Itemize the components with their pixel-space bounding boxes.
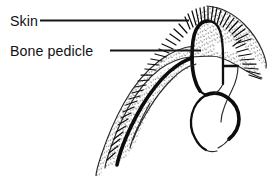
figure-container: Skin Bone pedicle <box>0 0 276 176</box>
anatomical-diagram: Skin Bone pedicle <box>0 0 276 176</box>
skin-label: Skin <box>10 13 38 29</box>
bone-pedicle-label: Bone pedicle <box>10 43 93 59</box>
